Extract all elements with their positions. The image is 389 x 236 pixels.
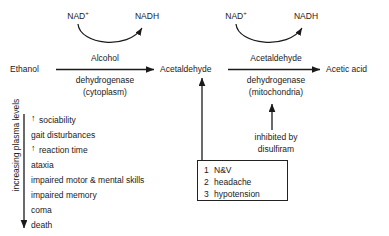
nad-plus-superscript: + xyxy=(243,10,247,16)
increase-arrow-icon: ↑ xyxy=(31,114,36,123)
adverse-effect-label: N&V xyxy=(214,165,231,175)
symptom-item: impaired memory xyxy=(31,190,97,200)
inhibition-note-line1: inhibited by xyxy=(254,133,297,142)
inhibition-note-line2: disulfiram xyxy=(258,145,294,154)
metabolite-acetic-acid: Acetic acid xyxy=(326,65,367,74)
cofactor-nadh-left: NADH xyxy=(135,12,159,21)
symptom-item: reaction time xyxy=(39,145,88,155)
enzyme-right-name-line2: dehydrogenase xyxy=(247,76,306,85)
nad-arc-right-icon xyxy=(236,24,302,42)
symptom-item: impaired motor & mental skills xyxy=(31,175,144,185)
adverse-effect-label: headache xyxy=(214,177,251,187)
adverse-effect-number: 2 xyxy=(204,177,209,187)
cofactor-nad-right: NAD+ xyxy=(225,12,246,21)
plasma-level-axis-label: increasing plasma levels xyxy=(11,97,21,193)
adverse-effect-number: 3 xyxy=(204,189,209,199)
adverse-effect-label: hypotension xyxy=(214,189,260,199)
enzyme-left-location: (cytoplasm) xyxy=(83,88,127,97)
adverse-effects-box: 1 N&V 2 headache 3 hypotension xyxy=(197,160,288,201)
adverse-effect-number: 1 xyxy=(204,165,209,175)
symptom-item: gait disturbances xyxy=(31,130,95,140)
metabolite-acetaldehyde: Acetaldehyde xyxy=(160,65,212,74)
ethanol-metabolism-diagram: NAD+ NADH NAD+ NADH Ethanol Acetaldehyde… xyxy=(0,0,389,236)
nad-plus-superscript: + xyxy=(85,10,89,16)
enzyme-left-name-line1: Alcohol xyxy=(91,54,119,63)
enzyme-left-name-line2: dehydrogenase xyxy=(76,76,135,85)
cofactor-nadh-right: NADH xyxy=(294,12,318,21)
nad-arc-left-icon xyxy=(78,24,142,42)
symptom-item: coma xyxy=(31,205,52,215)
enzyme-right-location: (mitochondria) xyxy=(249,88,303,97)
cofactor-nad-left: NAD+ xyxy=(67,12,88,21)
symptom-item: sociability xyxy=(39,115,76,125)
symptom-item: ataxia xyxy=(31,160,54,170)
increase-arrow-icon: ↑ xyxy=(31,144,36,153)
enzyme-right-name-line1: Acetaldehyde xyxy=(250,54,302,63)
symptom-item: death xyxy=(31,220,52,230)
metabolite-ethanol: Ethanol xyxy=(10,65,39,74)
